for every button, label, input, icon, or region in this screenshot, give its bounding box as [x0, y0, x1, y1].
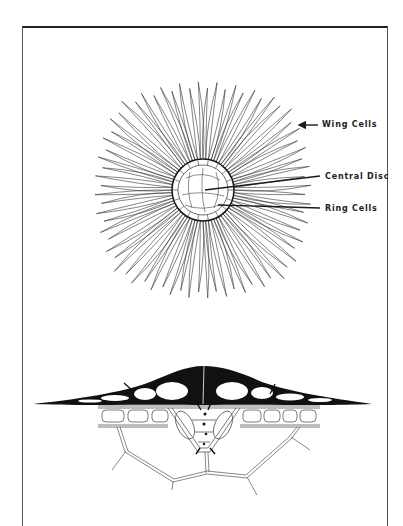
label-ring-cells: Ring Cells [325, 204, 378, 213]
label-wing-cells: Wing Cells [322, 120, 377, 129]
label-central-disc: Central Disc [325, 172, 389, 181]
cross-section [33, 366, 372, 495]
